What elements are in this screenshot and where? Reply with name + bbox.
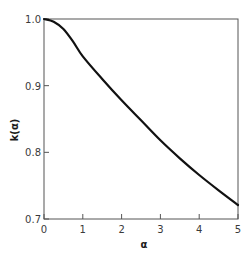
y-axis-title: k(α) [9,119,20,142]
y-tick-label-0.7: 0.7 [25,214,41,225]
x-tick-label-4: 4 [196,224,202,235]
x-axis-title: α [141,239,148,250]
line-chart: 0 1 2 3 4 5 0.7 0.8 0.9 1.0 α k(α) [0,0,252,256]
y-tick-label-0.8: 0.8 [25,147,41,158]
x-tick-label-1: 1 [80,224,86,235]
y-tick-label-1.0: 1.0 [25,14,41,25]
curve-layer [44,19,238,205]
x-tick-label-2: 2 [118,224,124,235]
k-alpha-curve [44,19,238,205]
x-tick-label-0: 0 [41,224,47,235]
x-tick-label-5: 5 [235,224,241,235]
y-tick-label-0.9: 0.9 [25,81,41,92]
x-tick-label-3: 3 [157,224,163,235]
